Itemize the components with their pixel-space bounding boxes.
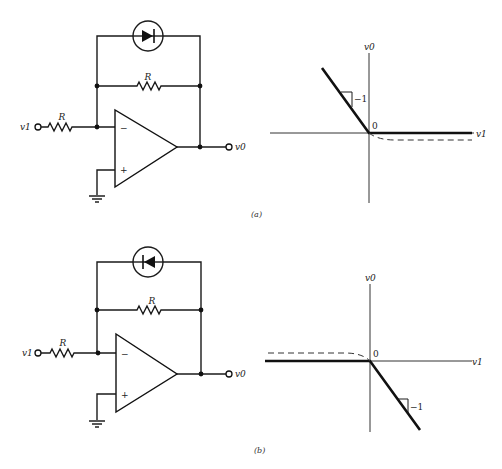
junction-dot [198,84,203,89]
noninverting-sign: + [121,390,129,400]
diode-icon [133,21,163,51]
output-terminal-icon [226,371,232,377]
x-axis-label: v1 [476,129,487,139]
ground-wire [97,394,116,420]
output-terminal-icon [226,144,232,150]
origin-label: 0 [373,349,379,359]
input-resistor-icon [41,349,116,357]
ground-icon [89,421,105,427]
ground-wire [97,170,115,195]
opamp-icon [116,334,177,412]
input-terminal-icon [35,350,41,356]
ground-icon [89,196,105,202]
output-label-b: v0 [235,369,246,379]
feedback-resistor-label: R [148,296,156,306]
ideal-curve [322,68,472,133]
junction-dot [199,372,204,377]
caption-a: (a) [251,210,262,219]
junction-dot [95,84,100,89]
inverting-sign: − [120,123,128,133]
input-resistor-label: R [58,112,66,122]
origin-label: 0 [372,121,378,131]
feedback-resistor-icon [97,306,201,314]
inverting-sign: − [121,349,129,359]
junction-dot [95,125,100,130]
junction-dot [199,308,204,313]
feedback-wire-b [97,262,201,374]
slope-triangle-icon [341,92,352,107]
output-label-a: v0 [235,142,246,152]
y-axis-label: v0 [364,42,375,52]
noninverting-sign: + [120,165,128,175]
circuit-b: R v1 R − + v0 [22,247,246,427]
feedback-resistor-label: R [144,72,152,82]
diode-icon [133,247,163,277]
graph-a: v0 v1 0 −1 [270,42,487,203]
opamp-icon [115,110,177,187]
x-axis-label: v1 [472,357,483,367]
slope-label: −1 [410,402,423,412]
input-label-b: v1 [22,348,33,358]
input-label-a: v1 [20,122,31,132]
input-resistor-label: R [59,338,67,348]
junction-dot [96,351,101,356]
caption-b: (b) [254,446,265,455]
y-axis-label: v0 [365,273,376,283]
slope-label: −1 [354,94,367,104]
graph-b: v0 v1 0 −1 [265,273,483,432]
ideal-curve [265,361,420,430]
input-terminal-icon [35,124,41,130]
junction-dot [95,308,100,313]
circuit-a: R v1 R − + v0 [20,21,246,202]
feedback-resistor-icon [97,82,200,90]
junction-dot [198,145,203,150]
input-resistor-icon [41,123,115,131]
